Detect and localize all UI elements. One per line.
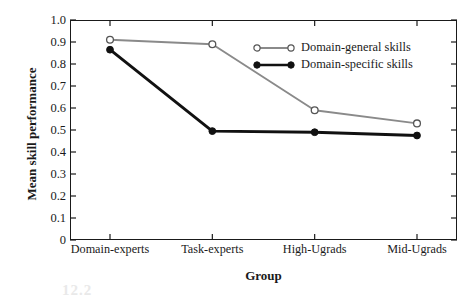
y-tick-label: 0.2 xyxy=(38,190,66,203)
y-tick-label: 0.6 xyxy=(38,102,66,115)
legend-label-domain-general: Domain-general skills xyxy=(301,41,411,53)
y-tick-label: 0.8 xyxy=(38,58,66,71)
x-tick-label: Task-experts xyxy=(181,243,243,255)
x-tick-label: High-Ugrads xyxy=(283,243,347,255)
y-tick-label: 0.1 xyxy=(38,212,66,225)
x-axis-title: Group xyxy=(70,268,457,284)
x-tick-label: Domain-experts xyxy=(71,243,150,255)
y-tick-label: 0.3 xyxy=(38,168,66,181)
y-tick-label: 0.9 xyxy=(38,36,66,49)
legend-item-domain-general: Domain-general skills xyxy=(252,40,413,55)
chart-legend: Domain-general skills Domain-specific sk… xyxy=(252,40,413,74)
filled-circle-line-icon xyxy=(252,58,296,72)
y-tick-label: 0.7 xyxy=(38,80,66,93)
y-tick-label: 0.4 xyxy=(38,146,66,159)
scan-artifact-text: 12.2 xyxy=(62,282,92,298)
open-circle-line-icon xyxy=(252,41,296,55)
chart-page: 1.00.90.80.70.60.50.40.30.20.10 Domain-e… xyxy=(0,0,469,298)
y-tick-label: 0.5 xyxy=(38,124,66,137)
y-axis-title: Mean skill performance xyxy=(24,39,40,229)
legend-label-domain-specific: Domain-specific skills xyxy=(301,58,413,70)
x-tick-label: Mid-Ugrads xyxy=(387,243,447,255)
y-tick-label: 1.0 xyxy=(38,14,66,27)
legend-item-domain-specific: Domain-specific skills xyxy=(252,57,413,72)
y-tick-label: 0 xyxy=(38,234,66,247)
